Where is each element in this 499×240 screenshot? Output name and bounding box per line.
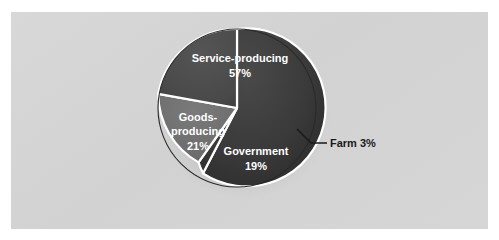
slice-label-service-producing-name: Service-producing [192, 52, 289, 64]
slice-label-service-producing-value: 57% [229, 67, 251, 79]
slice-label-government-value: 19% [245, 160, 267, 172]
slice-label-goods-producing-name-line1: Goods- [179, 111, 218, 123]
slice-label-government-name: Government [224, 145, 289, 157]
slice-label-goods-producing-value: 21% [187, 140, 209, 152]
pie-chart-svg: Service-producing 57% Goods- producing 2… [0, 0, 499, 240]
pie-chart: Service-producing 57% Goods- producing 2… [0, 0, 499, 240]
pie-slice-goods-producing[interactable] [158, 29, 237, 108]
slice-label-goods-producing-name-line2: producing [171, 125, 225, 137]
slice-label-farm: Farm 3% [330, 137, 376, 149]
figure-container: Service-producing 57% Goods- producing 2… [0, 0, 499, 240]
